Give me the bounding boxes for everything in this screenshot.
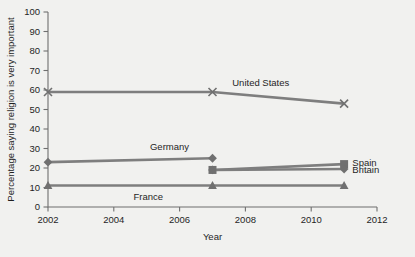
y-tick-label: 50 (29, 104, 40, 115)
x-tick-label: 2006 (169, 214, 190, 225)
x-tick-label: 2004 (103, 214, 124, 225)
y-tick-label: 90 (29, 26, 40, 37)
y-tick-label: 60 (29, 84, 40, 95)
series-line (48, 92, 344, 104)
chart-figure: 0102030405060708090100200220042006200820… (0, 0, 415, 257)
y-tick-label: 40 (29, 123, 40, 134)
series-france (44, 181, 349, 189)
diamond-marker-icon (208, 154, 217, 163)
y-tick-label: 0 (35, 201, 40, 212)
y-tick-label: 80 (29, 45, 40, 56)
x-axis-title: Year (203, 231, 222, 242)
series-label-germany: Germany (150, 141, 189, 152)
y-tick-label: 10 (29, 182, 40, 193)
x-tick-label: 2012 (366, 214, 387, 225)
chart-tick-labels: 0102030405060708090100200220042006200820… (24, 6, 387, 225)
series-label-united-states: United States (232, 77, 289, 88)
series-line (48, 158, 213, 162)
series-label-britain: Britain (352, 164, 379, 175)
chart-series-layer (44, 88, 349, 189)
series-united-states (44, 88, 348, 108)
x-tick-label: 2002 (37, 214, 58, 225)
x-tick-label: 2008 (235, 214, 256, 225)
y-tick-label: 30 (29, 143, 40, 154)
diamond-marker-icon (44, 158, 53, 167)
y-tick-label: 70 (29, 65, 40, 76)
y-tick-label: 20 (29, 162, 40, 173)
series-line (213, 169, 345, 170)
series-spain (209, 160, 349, 174)
axis-frame (48, 12, 377, 207)
line-chart: 0102030405060708090100200220042006200820… (0, 0, 415, 257)
series-germany (44, 154, 217, 167)
x-tick-label: 2010 (301, 214, 322, 225)
y-tick-label: 100 (24, 6, 40, 17)
y-axis-title: Percentage saying religion is very impor… (5, 17, 16, 202)
series-label-france: France (134, 191, 164, 202)
chart-axes (44, 12, 378, 212)
